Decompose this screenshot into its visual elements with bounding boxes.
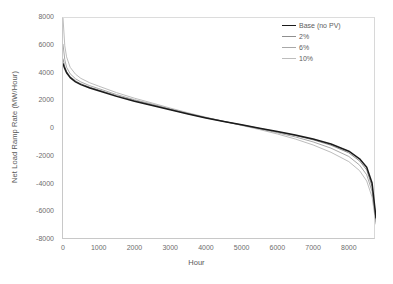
y-axis-tick: -6000 xyxy=(0,207,54,214)
legend-label: 10% xyxy=(299,54,313,63)
y-axis-tick: -8000 xyxy=(0,235,54,242)
x-axis-tick: 2000 xyxy=(114,244,154,251)
series-line xyxy=(63,44,376,222)
x-axis-tick: 7000 xyxy=(293,244,333,251)
y-axis-tick: 8000 xyxy=(0,13,54,20)
x-axis-tick: 0 xyxy=(43,244,83,251)
legend-swatch-icon xyxy=(282,36,296,37)
x-axis-tick: 4000 xyxy=(186,244,226,251)
legend-item: 10% xyxy=(282,53,374,64)
y-axis-tick: -4000 xyxy=(0,179,54,186)
x-axis-tick: 8000 xyxy=(329,244,369,251)
series-line xyxy=(63,64,376,218)
legend-swatch-icon xyxy=(282,25,296,26)
chart-legend: Base (no PV)2%6%10% xyxy=(282,20,374,64)
legend-swatch-icon xyxy=(282,47,296,48)
legend-label: Base (no PV) xyxy=(299,21,341,30)
x-axis-tick: 1000 xyxy=(79,244,119,251)
legend-item: 6% xyxy=(282,42,374,53)
legend-item: Base (no PV) xyxy=(282,20,374,31)
y-axis-tick: 0 xyxy=(0,124,54,131)
x-axis-title: Hour xyxy=(0,258,393,267)
legend-label: 2% xyxy=(299,32,309,41)
series-line xyxy=(63,59,376,220)
x-axis-tick: 6000 xyxy=(257,244,297,251)
y-axis-tick: 6000 xyxy=(0,40,54,47)
x-axis-tick: 3000 xyxy=(150,244,190,251)
y-axis-tick: 4000 xyxy=(0,68,54,75)
y-axis-tick-labels: 80006000400020000-2000-4000-6000-8000 xyxy=(0,0,58,222)
chart-figure: Net Load Ramp Rate (MW/Hour) 80006000400… xyxy=(0,0,393,284)
y-axis-tick: 2000 xyxy=(0,96,54,103)
legend-item: 2% xyxy=(282,31,374,42)
y-axis-tick: -2000 xyxy=(0,151,54,158)
x-axis-tick: 5000 xyxy=(222,244,262,251)
legend-swatch-icon xyxy=(282,58,296,59)
legend-label: 6% xyxy=(299,43,309,52)
